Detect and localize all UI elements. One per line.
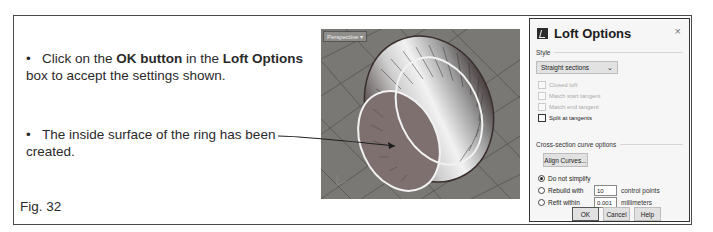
viewport-title[interactable]: Perspective ▾ [323, 31, 367, 42]
bullet-glyph: • [26, 127, 31, 142]
instruction-ok-button: • Click on the OK button in the Loft Opt… [26, 50, 326, 84]
rebuild-with-radio[interactable]: Rebuild with [538, 187, 583, 194]
bold-ok-button: OK button [116, 51, 182, 66]
text: box to accept the settings shown. [26, 68, 226, 83]
match-end-tangent-checkbox[interactable]: Match end tangent [538, 103, 599, 111]
text: The inside surface of the ring has been … [26, 127, 275, 159]
ok-button[interactable]: OK [572, 207, 599, 221]
millimeters-unit: millimeters [621, 199, 652, 206]
figure-label: Fig. 32 [20, 199, 61, 214]
checkbox-box[interactable] [538, 81, 546, 89]
perspective-viewport[interactable]: Perspective ▾ [321, 29, 520, 199]
chevron-down-icon[interactable]: ▾ [360, 34, 363, 40]
dialog-title: Loft Options [554, 26, 631, 41]
text: in the [182, 51, 223, 66]
instruction-inside-surface: • The inside surface of the ring has bee… [26, 126, 326, 160]
checkbox-box[interactable] [538, 103, 546, 111]
close-icon[interactable]: × [675, 25, 681, 37]
radio-dot[interactable] [538, 199, 545, 206]
checkbox-label: Closed loft [549, 82, 577, 88]
style-section: Style [536, 49, 683, 56]
help-button[interactable]: Help [634, 207, 661, 221]
axis-indicator [337, 175, 347, 185]
viewport-label: Perspective [327, 34, 358, 40]
ring-model-render [321, 29, 520, 199]
radio-dot[interactable] [538, 175, 545, 182]
text: Click on the [42, 51, 116, 66]
bullet-glyph: • [26, 51, 31, 66]
chevron-down-icon: ⌄ [607, 64, 613, 72]
loft-options-dialog: Loft Options × Style Straight sections ⌄… [529, 18, 690, 222]
cancel-button[interactable]: Cancel [603, 207, 630, 221]
divider [620, 144, 683, 145]
checkbox-box[interactable] [538, 114, 546, 122]
divider [554, 52, 683, 53]
do-not-simplify-radio[interactable]: Do not simplify [538, 175, 591, 182]
bold-loft-options: Loft Options [223, 51, 303, 66]
closed-loft-checkbox[interactable]: Closed loft [538, 81, 577, 89]
radio-dot[interactable] [538, 187, 545, 194]
cross-section-section: Cross-section curve options [536, 141, 683, 148]
radio-label: Do not simplify [548, 175, 591, 182]
match-start-tangent-checkbox[interactable]: Match start tangent [538, 92, 600, 100]
dialog-titlebar: Loft Options [537, 23, 631, 43]
checkbox-label: Match end tangent [549, 104, 599, 110]
split-at-tangents-checkbox[interactable]: Split at tangents [538, 114, 592, 122]
radio-label: Refit within [548, 199, 580, 206]
align-curves-button[interactable]: Align Curves... [543, 153, 588, 167]
radio-label: Rebuild with [548, 187, 583, 194]
control-points-unit: control points [621, 187, 660, 194]
loft-icon [537, 28, 548, 39]
checkbox-label: Match start tangent [549, 93, 600, 99]
refit-within-radio[interactable]: Refit within [538, 199, 580, 206]
cross-section-label: Cross-section curve options [536, 141, 616, 148]
checkbox-box[interactable] [538, 92, 546, 100]
style-select[interactable]: Straight sections ⌄ [536, 61, 618, 74]
style-select-value: Straight sections [541, 64, 589, 71]
style-section-label: Style [536, 49, 550, 56]
rebuild-control-points-input[interactable]: 10 [594, 185, 617, 196]
checkbox-label: Split at tangents [549, 115, 592, 121]
